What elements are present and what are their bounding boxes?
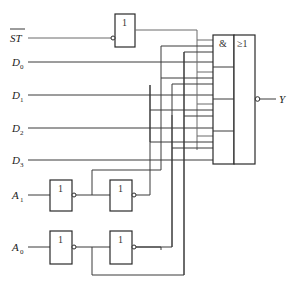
inversion-bubble [72, 193, 76, 197]
input-label-d1: D 1 [11, 89, 24, 104]
svg-text:1: 1 [118, 234, 123, 245]
wire-a1-bar-bus [92, 63, 161, 195]
svg-text:D: D [11, 56, 20, 68]
svg-text:D: D [11, 89, 20, 101]
svg-text:2: 2 [20, 129, 24, 137]
svg-text:0: 0 [20, 248, 24, 256]
svg-text:1: 1 [58, 234, 63, 245]
svg-text:D: D [11, 122, 20, 134]
inversion-bubble [111, 36, 115, 40]
a0-not-gate-1: 1 [50, 231, 76, 264]
st-not-gate: 1 [111, 14, 135, 47]
svg-text:1: 1 [20, 196, 24, 204]
inversion-bubble [132, 245, 136, 249]
wire-st-enable-bus [135, 30, 197, 150]
and-symbol: & [219, 38, 227, 49]
input-label-d0: D 0 [11, 56, 24, 71]
svg-text:1: 1 [122, 17, 127, 28]
wire-a0-bus [136, 115, 172, 247]
logic-circuit-diagram: ST D 0 D 1 D 2 D 3 A 1 A 0 1 [0, 0, 293, 285]
inversion-bubble [132, 193, 136, 197]
svg-text:D: D [11, 154, 20, 166]
input-label-a1: A 1 [11, 189, 24, 204]
a0-not-gate-2: 1 [110, 231, 136, 264]
svg-text:A: A [11, 189, 19, 201]
a1-not-gate-2: 1 [110, 180, 136, 211]
output-label-y: Y [279, 93, 287, 105]
or-symbol: ≥1 [237, 38, 248, 49]
input-label-st: ST [10, 29, 25, 44]
svg-text:ST: ST [10, 32, 23, 44]
svg-text:A: A [11, 241, 19, 253]
and-or-invert-gate: & ≥1 [213, 35, 260, 164]
input-label-d2: D 2 [11, 122, 24, 137]
or-column [234, 35, 255, 164]
wire-a1-bus [136, 85, 150, 195]
svg-text:1: 1 [58, 183, 63, 194]
svg-text:3: 3 [20, 161, 24, 169]
svg-text:0: 0 [20, 63, 24, 71]
input-label-d3: D 3 [11, 154, 24, 169]
svg-text:1: 1 [118, 183, 123, 194]
inversion-bubble [72, 245, 76, 249]
svg-text:1: 1 [20, 96, 24, 104]
output-inversion-bubble [255, 97, 260, 102]
wire-a0-bar-bus [92, 52, 184, 275]
input-label-a0: A 0 [11, 241, 24, 256]
a1-not-gate-1: 1 [50, 180, 76, 211]
